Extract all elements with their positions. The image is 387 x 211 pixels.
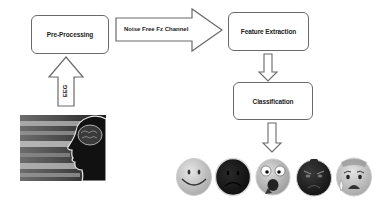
- happy-face-icon: [175, 157, 213, 197]
- emoji-happy: [175, 157, 213, 197]
- brain-head-icon: [20, 115, 106, 181]
- emoji-angry: [295, 157, 333, 197]
- emoji-sad: [214, 157, 252, 197]
- eeg-label: EEG: [62, 85, 68, 98]
- preprocessing-box: Pre-Processing: [31, 15, 109, 54]
- anxious-sweat-face-icon: [335, 156, 373, 198]
- down-arrow-2: [263, 123, 281, 152]
- emoji-shocked: [254, 157, 292, 197]
- feature-extraction-label: Feature Extraction: [241, 28, 296, 35]
- preprocessing-label: Pre-Processing: [47, 31, 93, 38]
- sad-face-icon: [214, 157, 252, 197]
- eeg-up-arrow: [49, 57, 83, 106]
- eeg-brain-image: [20, 115, 106, 181]
- emoji-anxious: [335, 156, 373, 196]
- angry-face-icon: [295, 157, 333, 197]
- feature-extraction-box: Feature Extraction: [228, 12, 309, 51]
- classification-label: Classification: [253, 98, 294, 105]
- classification-box: Classification: [233, 82, 313, 120]
- shocked-face-icon: [254, 157, 292, 197]
- noise-free-label: Noise Free Fz Channel: [124, 26, 188, 32]
- down-arrow-1: [259, 54, 277, 81]
